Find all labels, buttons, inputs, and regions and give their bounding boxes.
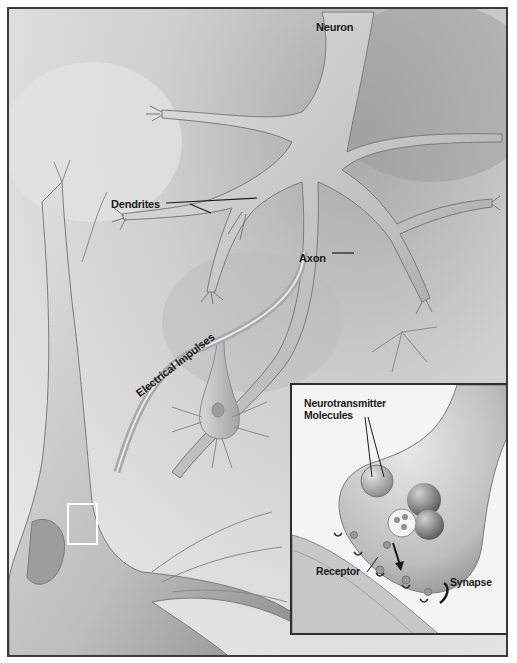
label-dendrites: Dendrites bbox=[111, 198, 160, 210]
synapse-illustration bbox=[292, 385, 508, 635]
label-receptor: Receptor bbox=[316, 565, 360, 577]
illustration-frame: Neuron Dendrites Axon Electrical Impulse… bbox=[7, 7, 508, 657]
vesicle-releasing bbox=[388, 509, 416, 537]
label-neuron: Neuron bbox=[316, 21, 353, 33]
neurotransmitter-vesicle bbox=[361, 465, 393, 497]
label-neurotransmitter: Neurotransmitter bbox=[304, 397, 386, 409]
label-synapse: Synapse bbox=[450, 576, 492, 588]
synapse-inset: Neurotransmitter Molecules Receptor Syna… bbox=[290, 383, 508, 635]
label-axon: Axon bbox=[299, 252, 326, 264]
vesicle-dark bbox=[414, 510, 444, 540]
label-molecules: Molecules bbox=[304, 409, 353, 421]
